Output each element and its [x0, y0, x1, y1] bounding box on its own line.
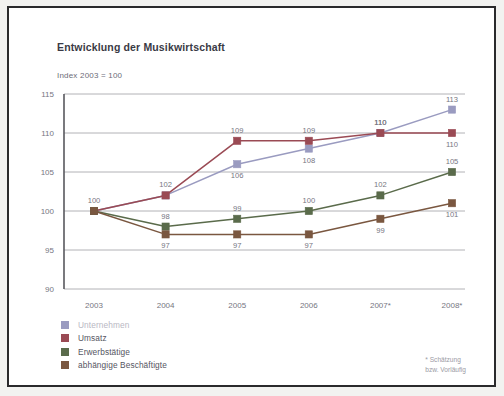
- legend-swatch-icon: [61, 348, 69, 356]
- legend-item-label: Unternehmen: [78, 320, 129, 330]
- series-marker: [234, 231, 241, 238]
- series-marker: [234, 137, 241, 144]
- series-marker: [162, 223, 169, 230]
- series-marker: [377, 215, 384, 222]
- y-axis-tick-label: 100: [41, 207, 55, 216]
- data-point-label: 110: [374, 118, 386, 127]
- chart-frame: Entwicklung der Musikwirtschaft Index 20…: [7, 6, 496, 387]
- data-point-label: 97: [305, 241, 313, 250]
- y-axis-tick-label: 95: [45, 246, 54, 255]
- series-marker: [305, 207, 312, 214]
- data-point-label: 102: [159, 180, 172, 189]
- series-marker: [234, 161, 241, 168]
- data-point-label: 108: [302, 156, 315, 165]
- data-point-label: 97: [233, 241, 241, 250]
- footnote-line-2: bzw. Vorläufig: [425, 365, 466, 375]
- series-marker: [90, 207, 97, 214]
- x-axis-tick-label: 2003: [85, 301, 103, 310]
- data-point-label: 100: [302, 196, 315, 205]
- legend-item[interactable]: Umsatz: [61, 332, 291, 345]
- series-marker: [377, 129, 384, 136]
- data-point-label: 100: [88, 196, 101, 205]
- data-point-label: 98: [161, 212, 169, 221]
- data-point-label: 101: [446, 210, 459, 219]
- series-marker: [377, 192, 384, 199]
- x-axis-tick-label: 2005: [228, 301, 246, 310]
- chart-footnote: * Schätzung bzw. Vorläufig: [425, 355, 466, 375]
- y-axis-tick-label: 105: [41, 168, 55, 177]
- legend-item-label: Erwerbstätige: [78, 347, 130, 357]
- series-marker: [305, 137, 312, 144]
- data-point-label: 109: [231, 126, 244, 135]
- legend-item[interactable]: abhängige Beschäftigte: [61, 359, 291, 372]
- legend-item[interactable]: Erwerbstätige: [61, 345, 291, 358]
- data-point-label: 105: [446, 157, 459, 166]
- legend-item[interactable]: Unternehmen: [61, 318, 291, 331]
- data-point-label: 113: [446, 95, 458, 104]
- legend-swatch-icon: [61, 321, 69, 329]
- series-marker: [448, 200, 455, 207]
- x-axis-tick-label: 2006: [300, 301, 318, 310]
- data-point-label: 110: [446, 140, 458, 149]
- data-point-label: 106: [231, 171, 244, 180]
- y-axis-tick-label: 110: [41, 129, 54, 138]
- legend-item-label: Umsatz: [78, 333, 107, 343]
- data-point-label: 99: [376, 226, 384, 235]
- series-marker: [234, 215, 241, 222]
- legend-swatch-icon: [61, 361, 69, 369]
- legend-item-label: abhängige Beschäftigte: [78, 360, 167, 370]
- series-marker: [448, 106, 455, 113]
- series-marker: [448, 168, 455, 175]
- series-line: [94, 110, 452, 211]
- x-axis-tick-label: 2008*: [442, 301, 463, 310]
- x-axis-tick-label: 2007*: [370, 301, 391, 310]
- x-axis-tick-label: 2004: [157, 301, 175, 310]
- series-marker: [448, 129, 455, 136]
- series-line: [94, 203, 452, 234]
- figure-canvas: Entwicklung der Musikwirtschaft Index 20…: [0, 0, 504, 396]
- y-axis-tick-label: 90: [45, 285, 54, 294]
- chart-inner: Entwicklung der Musikwirtschaft Index 20…: [9, 8, 494, 385]
- series-marker: [162, 192, 169, 199]
- data-point-label: 99: [233, 204, 241, 213]
- y-axis-tick-label: 115: [41, 90, 54, 99]
- legend-swatch-icon: [61, 334, 69, 342]
- data-point-label: 102: [374, 180, 387, 189]
- footnote-line-1: * Schätzung: [425, 355, 466, 365]
- series-marker: [162, 231, 169, 238]
- data-point-label: 109: [302, 126, 315, 135]
- series-marker: [305, 145, 312, 152]
- chart-legend: UnternehmenUmsatzErwerbstätigeabhängige …: [61, 318, 291, 372]
- series-marker: [305, 231, 312, 238]
- data-point-label: 97: [161, 241, 169, 250]
